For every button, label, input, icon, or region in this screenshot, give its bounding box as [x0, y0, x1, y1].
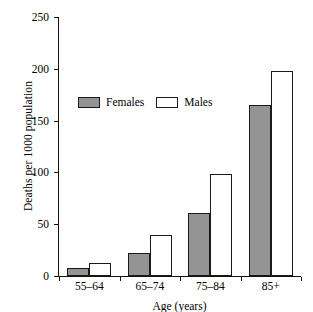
bar-females-75_84	[188, 213, 210, 276]
plot-area: 050100150200250 55–6465–7475–8485+ Age (…	[58, 17, 301, 277]
bar-males-55_64	[89, 263, 111, 276]
x-tick-mark	[59, 277, 60, 281]
legend-label-males: Males	[184, 96, 212, 108]
bar-females-65_74	[128, 253, 150, 276]
x-tick-mark	[120, 277, 121, 281]
bar-males-65_74	[150, 235, 172, 276]
y-tick-label: 250	[32, 11, 49, 23]
bar-series-container	[59, 17, 301, 276]
x-tick-label: 55–64	[75, 280, 104, 292]
legend-entry-males: Males	[156, 96, 212, 108]
bar-females-55_64	[67, 268, 89, 276]
legend-label-females: Females	[106, 96, 144, 108]
legend: Females Males	[78, 96, 212, 108]
y-tick-label: 100	[32, 166, 49, 178]
x-axis-title: Age (years)	[58, 300, 301, 312]
x-tick-label: 75–84	[196, 280, 225, 292]
x-tick-mark	[241, 277, 242, 281]
x-tick-label: 85+	[262, 280, 280, 292]
y-tick-label: 50	[38, 218, 50, 230]
x-tick-label: 65–74	[135, 280, 164, 292]
bar-males-85+	[271, 71, 293, 276]
legend-swatch-females	[78, 97, 100, 108]
cropped-title-remnant	[0, 0, 313, 9]
bar-males-75_84	[210, 174, 232, 276]
x-tick-mark	[180, 277, 181, 281]
x-tick-mark	[301, 277, 302, 281]
y-tick-label: 200	[32, 63, 49, 75]
y-tick-label: 0	[43, 270, 49, 282]
legend-swatch-males	[156, 97, 178, 108]
y-axis-title: Deaths per 1000 population	[22, 21, 34, 271]
bar-females-85+	[249, 105, 271, 276]
legend-entry-females: Females	[78, 96, 144, 108]
y-tick-label: 150	[32, 115, 49, 127]
